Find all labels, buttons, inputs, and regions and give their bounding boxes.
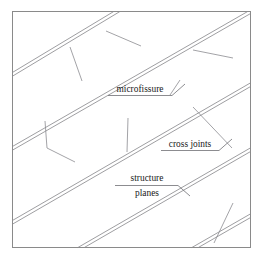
cross-joints-label: cross joints [169, 139, 212, 149]
figure-canvas: microfissure cross joints structure plan… [0, 0, 266, 262]
structure-planes-label-line1: structure [131, 173, 164, 183]
rock-structure-figure: microfissure cross joints structure plan… [0, 0, 266, 262]
structure-planes-label-line2: planes [135, 188, 159, 198]
microfissure-label: microfissure [117, 84, 164, 94]
